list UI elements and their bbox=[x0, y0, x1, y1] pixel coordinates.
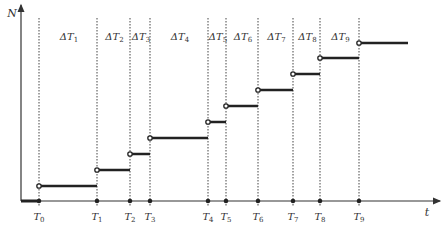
step-start-marker-3 bbox=[148, 136, 152, 140]
time-point-dot-5 bbox=[224, 199, 229, 204]
time-point-dot-3 bbox=[148, 199, 153, 204]
step-start-marker-2 bbox=[128, 152, 132, 156]
y-axis-label: N bbox=[6, 7, 17, 20]
interval-label-7: ΔT7 bbox=[266, 31, 285, 44]
step-start-marker-9 bbox=[357, 41, 361, 45]
time-point-dot-4 bbox=[206, 199, 211, 204]
time-point-dot-1 bbox=[95, 199, 100, 204]
interval-label-2: ΔT2 bbox=[104, 31, 123, 44]
step-start-marker-7 bbox=[291, 72, 295, 76]
interval-label-6: ΔT6 bbox=[233, 31, 253, 44]
time-label-t2: T2 bbox=[124, 211, 135, 224]
interval-label-3: ΔT3 bbox=[131, 31, 150, 44]
time-label-t5: T5 bbox=[220, 211, 231, 224]
time-point-dot-7 bbox=[291, 199, 296, 204]
interval-label-1: ΔT1 bbox=[59, 31, 78, 44]
time-point-dot-9 bbox=[357, 199, 362, 204]
interval-label-8: ΔT8 bbox=[297, 31, 316, 44]
x-axis-label: t bbox=[425, 206, 430, 219]
time-label-t4: T4 bbox=[202, 211, 214, 224]
time-label-t1: T1 bbox=[91, 211, 102, 224]
time-point-dot-8 bbox=[318, 199, 323, 204]
time-point-dot-6 bbox=[256, 199, 261, 204]
time-label-t7: T7 bbox=[287, 211, 298, 224]
interval-label-5: ΔT5 bbox=[208, 31, 227, 44]
time-label-t0: T0 bbox=[33, 211, 44, 224]
step-start-marker-0 bbox=[37, 184, 41, 188]
step-start-marker-1 bbox=[95, 168, 99, 172]
step-function-diagram: NtT0T1T2T3T4T5T6T7T8T9ΔT1ΔT2ΔT3ΔT4ΔT5ΔT6… bbox=[0, 0, 445, 233]
interval-label-4: ΔT4 bbox=[170, 31, 190, 44]
time-label-t9: T9 bbox=[353, 211, 364, 224]
step-start-marker-4 bbox=[206, 120, 210, 124]
step-start-marker-8 bbox=[318, 56, 322, 60]
time-label-t6: T6 bbox=[252, 211, 264, 224]
step-start-marker-5 bbox=[224, 104, 228, 108]
time-point-dot-2 bbox=[128, 199, 133, 204]
time-label-t3: T3 bbox=[144, 211, 155, 224]
step-start-marker-6 bbox=[256, 88, 260, 92]
time-point-dot-0 bbox=[37, 199, 42, 204]
interval-label-9: ΔT9 bbox=[330, 31, 349, 44]
time-label-t8: T8 bbox=[314, 211, 325, 224]
